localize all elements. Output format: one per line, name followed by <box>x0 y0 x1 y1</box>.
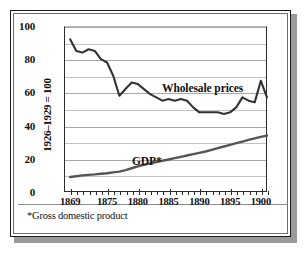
y-axis-tick-label: 40 <box>0 120 35 132</box>
series-line-wholesale-prices <box>70 39 267 114</box>
x-axis-tick-label: 1895 <box>220 196 240 207</box>
series-line-gdp <box>70 136 267 178</box>
series-label-wholesale-prices: Wholesale prices <box>162 82 243 94</box>
figure-root: 1926–1929 = 100 Wholesale prices GDP* *G… <box>0 0 305 257</box>
y-axis-tick-label: 80 <box>0 53 35 65</box>
x-axis-tick-label: 1900 <box>251 196 271 207</box>
chart-frame-inner: 1926–1929 = 100 Wholesale prices GDP* *G… <box>13 13 288 234</box>
x-axis-tick-minor <box>268 191 269 195</box>
chart-curves <box>64 26 267 192</box>
y-axis-tick-label: 60 <box>0 86 35 98</box>
x-axis-tick-label: 1885 <box>158 196 178 207</box>
plot-wrapper: 1926–1929 = 100 Wholesale prices GDP* *G… <box>14 14 291 237</box>
x-axis-tick-label: 1890 <box>189 196 209 207</box>
series-label-gdp: GDP* <box>132 155 162 167</box>
chart-frame-outer: 1926–1929 = 100 Wholesale prices GDP* *G… <box>10 10 291 237</box>
y-axis-tick-label: 0 <box>0 186 35 198</box>
x-axis-tick-label: 1875 <box>97 196 117 207</box>
x-axis-tick-label: 1880 <box>128 196 148 207</box>
footnote-divider <box>18 204 287 205</box>
footnote-text: *Gross domestic product <box>27 210 127 221</box>
y-axis-tick-label: 100 <box>0 20 35 32</box>
x-axis-tick-label: 1869 <box>60 196 80 207</box>
y-axis-tick-label: 20 <box>0 153 35 165</box>
y-axis-label: 1926–1929 = 100 <box>41 55 53 175</box>
